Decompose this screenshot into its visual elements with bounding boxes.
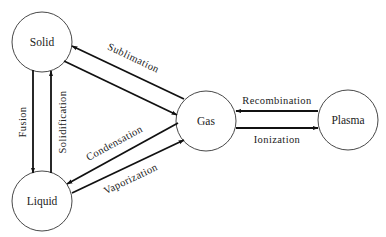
phase-transition-diagram: Solid Liquid Gas Plasma Fusion Solidific… <box>0 0 386 237</box>
node-liquid: Liquid <box>12 171 72 231</box>
solid-label: Solid <box>30 36 55 48</box>
edge-vaporization: Vaporization <box>72 140 184 196</box>
edge-ionization: Ionization <box>236 128 318 145</box>
solidification-label: Solidification <box>57 90 68 153</box>
node-gas: Gas <box>176 91 236 151</box>
node-solid: Solid <box>12 12 72 72</box>
ionization-label: Ionization <box>254 134 301 145</box>
edge-solidification: Solidification <box>51 71 68 173</box>
sublimation-label: Sublimation <box>106 41 161 75</box>
liquid-label: Liquid <box>27 195 58 208</box>
recombination-label: Recombination <box>242 95 312 106</box>
condensation-label: Condensation <box>84 123 145 163</box>
edge-condensation: Condensation <box>67 123 178 184</box>
gas-label: Gas <box>197 115 215 127</box>
edge-fusion: Fusion <box>17 70 33 173</box>
edge-sublimation: Sublimation <box>72 41 184 99</box>
node-plasma: Plasma <box>318 90 378 150</box>
plasma-label: Plasma <box>331 114 364 126</box>
vaporization-label: Vaporization <box>102 161 160 196</box>
edge-recombination: Recombination <box>236 95 318 111</box>
fusion-label: Fusion <box>17 106 28 137</box>
